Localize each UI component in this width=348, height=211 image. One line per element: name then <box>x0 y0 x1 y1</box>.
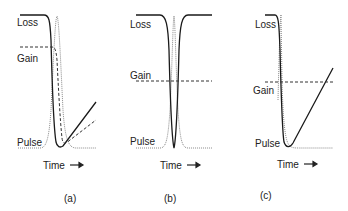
panel-b: Loss Gain Pulse Time (b) <box>130 15 212 204</box>
arrow-icon-a <box>70 163 83 168</box>
pulse-label-a: Pulse <box>17 137 42 148</box>
caption-c: (c) <box>260 190 272 201</box>
pulse-label-c: Pulse <box>255 138 280 149</box>
caption-b: (b) <box>164 193 176 204</box>
caption-a: (a) <box>64 193 76 204</box>
loss-curve-c <box>265 15 333 147</box>
gain-label-b: Gain <box>130 70 151 81</box>
time-label-a: Time <box>43 160 65 171</box>
loss-curve-a <box>20 15 96 147</box>
pulse-curve-a <box>18 16 96 148</box>
panel-c: Loss Gain Pulse Time (c) <box>253 15 333 201</box>
pulse-label-b: Pulse <box>130 136 155 147</box>
loss-label-c: Loss <box>255 19 276 30</box>
loss-label-b: Loss <box>130 19 151 30</box>
mode-locking-diagram: Loss Gain Pulse Time (a) Loss Gain Pulse… <box>0 0 348 211</box>
pulse-curve-b <box>136 16 212 148</box>
arrow-icon-b <box>187 163 200 168</box>
arrow-icon-c <box>304 162 317 167</box>
gain-label-a: Gain <box>17 53 38 64</box>
loss-label-a: Loss <box>17 17 38 28</box>
time-label-b: Time <box>160 160 182 171</box>
panel-a: Loss Gain Pulse Time (a) <box>17 15 96 204</box>
gain-label-c: Gain <box>253 85 274 96</box>
time-label-c: Time <box>277 159 299 170</box>
